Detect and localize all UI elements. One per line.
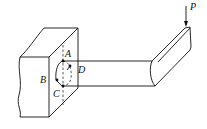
point-label-D: D <box>77 64 86 75</box>
load-label: P <box>189 1 196 12</box>
wall-side-face <box>49 28 78 117</box>
arm-inner-edge <box>158 28 190 62</box>
cross-section <box>56 60 72 88</box>
horizontal-bar <box>63 61 155 86</box>
arm-bottom-edge <box>155 50 190 86</box>
wall-front-face <box>20 57 49 117</box>
angled-arm <box>152 27 191 86</box>
point-B-marker <box>56 79 59 82</box>
wall-broken-edge <box>18 57 20 117</box>
wall-block <box>18 28 78 117</box>
point-label-A: A <box>64 48 72 59</box>
load-P: P <box>184 1 196 27</box>
point-label-B: B <box>40 74 46 85</box>
crank-diagram: P A B C D <box>0 0 207 129</box>
bar-end-curve <box>150 61 155 86</box>
arm-top-edge <box>152 28 185 61</box>
load-arrow-head-icon <box>184 21 188 27</box>
section-solid-edge <box>56 61 63 86</box>
point-label-C: C <box>53 88 60 99</box>
point-D-arrow <box>67 66 70 70</box>
